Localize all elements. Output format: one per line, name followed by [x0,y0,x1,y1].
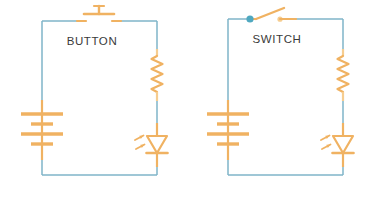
circuit-diagram-svg: BUTTON [0,0,371,198]
button-circuit-label: BUTTON [67,35,118,47]
pushbutton-symbol[interactable] [77,6,121,21]
button-circuit: BUTTON [21,6,168,175]
battery-symbol-switch-circuit [207,100,249,160]
battery-symbol-button-circuit [21,100,63,160]
switch-symbol[interactable] [246,8,296,23]
switch-circuit: SWITCH [207,8,354,175]
resistor-symbol-switch-circuit [338,49,349,101]
circuit-diagram-canvas: BUTTON [0,0,371,198]
switch-circuit-label: SWITCH [253,33,302,45]
resistor-symbol-button-circuit [152,49,163,101]
led-symbol-switch-circuit [321,123,354,167]
led-symbol-button-circuit [135,123,168,167]
